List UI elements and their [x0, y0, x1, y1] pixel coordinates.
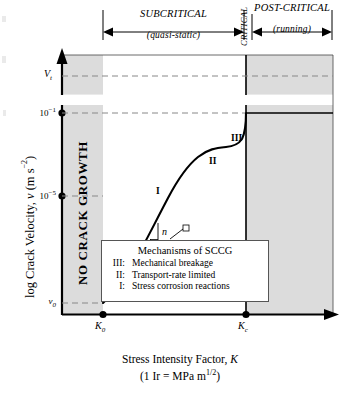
- legend-key: III:: [102, 258, 132, 270]
- legend-row: III: Mechanical breakage: [102, 258, 268, 270]
- y-tick-v0: v0: [32, 296, 56, 309]
- postcritical-subtitle: (running): [252, 23, 332, 35]
- postcritical-title-text: POST-CRITICAL: [254, 2, 330, 13]
- postcritical-title: POST-CRITICAL: [252, 2, 332, 14]
- slope-exponent-label: n: [162, 226, 167, 237]
- sccg-figure: SUBCRITICAL (quasi-static) CRITICAL POST…: [0, 0, 343, 398]
- subcritical-range-label: SUBCRITICAL (quasi-static): [103, 8, 244, 41]
- x-axis-title: Stress Intensity Factor, K (1 Ir = MPa m…: [60, 352, 300, 383]
- subcritical-title: SUBCRITICAL: [103, 8, 244, 20]
- postcritical-range-label: POST-CRITICAL (running): [252, 2, 332, 35]
- y-axis-title: log Crack Velocity, v (m s−2): [20, 118, 38, 298]
- y-tick-10e-5: 10−5: [28, 189, 56, 201]
- curve-region-2-label: II: [209, 156, 216, 166]
- legend-title: Mechanisms of SCCG: [102, 245, 268, 256]
- velocity-threshold-label: Vt: [44, 68, 52, 82]
- legend-row: I: Stress corrosion reactions: [102, 281, 268, 293]
- legend-key: II:: [102, 270, 132, 282]
- x-axis-units: (1 Ir = MPa m1/2): [60, 366, 300, 383]
- y-tick-10e-1: 10−1: [28, 106, 56, 118]
- curve-region-3-label: III: [231, 133, 242, 143]
- legend-description: Stress corrosion reactions: [132, 281, 268, 293]
- legend-panel: Mechanisms of SCCG III: Mechanical break…: [101, 240, 269, 302]
- legend-description: Mechanical breakage: [132, 258, 268, 270]
- x-tick-k0: K0: [95, 320, 105, 334]
- critical-label: CRITICAL: [239, 6, 249, 46]
- legend-description: Transport-rate limited: [132, 270, 268, 282]
- x-tick-kc: Kc: [238, 320, 248, 334]
- subcritical-subtitle: (quasi-static): [103, 29, 244, 41]
- legend-row: II: Transport-rate limited: [102, 270, 268, 282]
- no-crack-growth-label: NO CRACK GROWTH: [75, 138, 91, 288]
- x-axis-title-main: Stress Intensity Factor, K: [60, 352, 300, 366]
- curve-region-1-label: I: [156, 186, 160, 196]
- legend-key: I:: [102, 281, 132, 293]
